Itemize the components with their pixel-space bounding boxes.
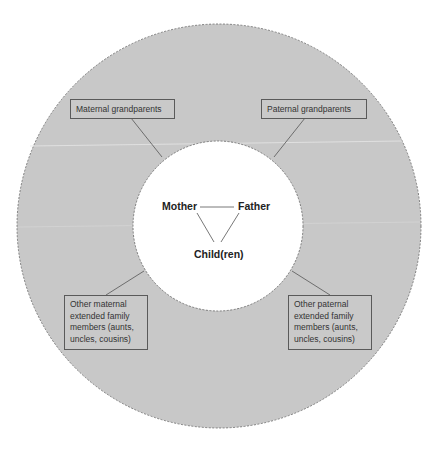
children-label: Child(ren) [194, 248, 244, 260]
other-maternal-family-box: Other maternal extended family members (… [64, 295, 148, 350]
paternal-grandparents-box: Paternal grandparents [261, 99, 367, 119]
mother-label: Mother [162, 200, 197, 212]
other-paternal-family-box: Other paternal extended family members (… [288, 295, 372, 350]
inner-circle-nuclear-family [133, 141, 303, 311]
father-label: Father [238, 200, 270, 212]
family-diagram-graphic [0, 0, 434, 449]
maternal-grandparents-box: Maternal grandparents [70, 99, 175, 119]
